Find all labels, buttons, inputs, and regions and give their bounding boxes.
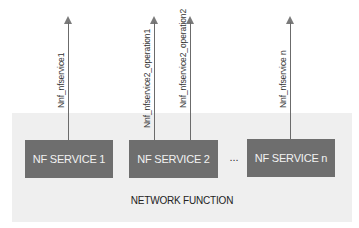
interface-line-nfservice2-op2 — [190, 22, 191, 140]
nf-service-n-label: NF SERVICE n — [255, 152, 328, 164]
interface-line-nfservice2-op1 — [154, 22, 155, 140]
interface-label-nfservice2-op1: Nnf_nfservice2_operation1 — [142, 29, 152, 128]
nf-service-2-label: NF SERVICE 2 — [137, 153, 210, 165]
nf-service-1-box: NF SERVICE 1 — [25, 140, 113, 178]
interface-label-nfservice2-op2: Nnf_nfservice2_operation2 — [178, 9, 188, 108]
interface-label-nfservice-n: Nnf_nfservice n — [278, 50, 288, 108]
nf-service-n-box: NF SERVICE n — [247, 139, 335, 177]
interface-line-nfservice-n — [290, 22, 291, 139]
network-function-label: NETWORK FUNCTION — [12, 195, 352, 206]
ellipsis: ... — [225, 151, 243, 163]
nf-service-2-box: NF SERVICE 2 — [129, 140, 218, 178]
interface-label-nfservice1: Nnf_nfservice1 — [56, 53, 66, 108]
nf-service-1-label: NF SERVICE 1 — [33, 153, 106, 165]
interface-line-nfservice1 — [68, 22, 69, 140]
